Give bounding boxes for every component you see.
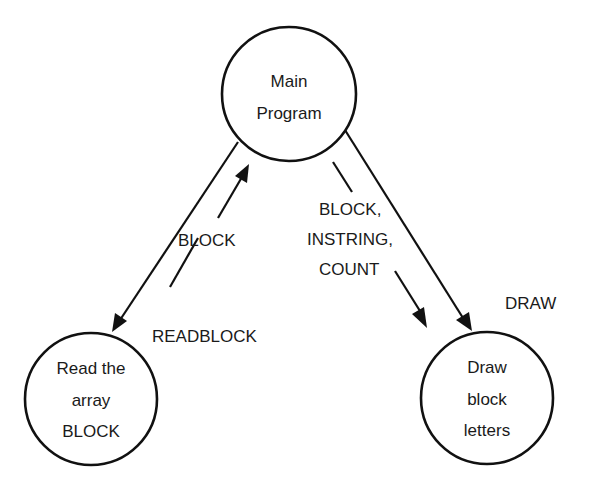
node-read-array-block: Read the array BLOCK xyxy=(25,333,157,465)
node-label-line: BLOCK xyxy=(62,422,120,441)
node-label-line: Program xyxy=(256,104,321,123)
dataflow-label-line: BLOCK, xyxy=(319,200,381,219)
node-label-line: array xyxy=(72,391,111,410)
structure-chart-diagram: Main Program Read the array BLOCK Draw b… xyxy=(0,0,591,490)
arrowhead-icon xyxy=(112,313,127,332)
dataflow-label-line: INSTRING, xyxy=(307,230,393,249)
node-label-line: Read the xyxy=(57,359,126,378)
node-main-program: Main Program xyxy=(222,27,356,161)
edge-label-readblock: READBLOCK xyxy=(152,327,258,346)
node-label-line: Main xyxy=(271,72,308,91)
dataflow-label-line: COUNT xyxy=(319,260,379,279)
node-label-line: block xyxy=(467,390,507,409)
arrowhead-icon xyxy=(412,307,427,328)
arrowhead-icon xyxy=(235,164,249,183)
node-label-line: Draw xyxy=(467,358,507,377)
node-label-line: letters xyxy=(464,421,510,440)
node-draw-block-letters: Draw block letters xyxy=(421,332,553,464)
edge-label-draw: DRAW xyxy=(505,294,556,313)
dataflow-label-block: BLOCK xyxy=(178,231,236,250)
arrowhead-icon xyxy=(456,312,472,331)
